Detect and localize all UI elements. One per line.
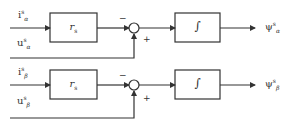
current-input-label-alpha: isα bbox=[18, 10, 28, 20]
voltage-input-label-beta: usβ bbox=[17, 96, 30, 106]
plus-sign-alpha: + bbox=[143, 35, 151, 44]
voltage-input-label-alpha: usα bbox=[17, 38, 31, 48]
integral-icon-alpha: ∫ bbox=[175, 20, 220, 32]
gain-block-label-beta: rs bbox=[50, 79, 97, 91]
gain-block-label-alpha: rs bbox=[50, 22, 97, 34]
minus-sign-alpha: − bbox=[119, 14, 127, 23]
current-input-label-beta: isβ bbox=[18, 67, 28, 77]
block-diagram-canvas bbox=[0, 0, 287, 125]
output-label-alpha: ψsα bbox=[265, 22, 280, 32]
plus-sign-beta: + bbox=[143, 94, 151, 103]
summing-junction-beta bbox=[129, 80, 139, 90]
integral-icon-beta: ∫ bbox=[175, 77, 220, 89]
minus-sign-beta: − bbox=[119, 71, 127, 80]
output-label-beta: ψsβ bbox=[265, 79, 279, 89]
summing-junction-alpha bbox=[129, 23, 139, 33]
